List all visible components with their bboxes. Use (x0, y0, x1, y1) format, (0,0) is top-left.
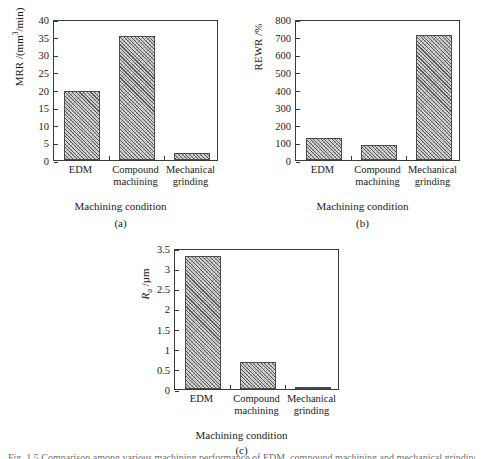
plot-frame-a: 0510152025303540 (53, 20, 218, 161)
figure-container: MRR /(mm3/min) 0510152025303540 EDMCompo… (0, 0, 483, 459)
x-axis-categories-c: EDMCompoundmachiningMechanicalgrinding (174, 393, 339, 427)
y-axis-label-a: MRR /(mm3/min) (9, 0, 23, 107)
y-tick-label: 2.5 (157, 283, 170, 297)
y-tick-mark (175, 391, 179, 392)
y-tick-label: 25 (39, 67, 50, 81)
x-category-label: EDM (295, 164, 350, 176)
y-tick-label: 300 (275, 102, 291, 116)
x-axis-label-a: Machining condition (0, 200, 241, 212)
y-tick-label: 5 (44, 137, 49, 151)
y-axis-label-b: REWR /% (251, 0, 265, 107)
x-tick-mark (164, 156, 165, 160)
y-tick-label: 30 (39, 49, 50, 63)
y-tick-label: 0 (286, 155, 291, 169)
x-category-label: Mechanicalgrinding (405, 164, 460, 187)
y-tick-label: 10 (39, 120, 50, 134)
y-tick-label: 700 (275, 32, 291, 46)
x-category-label: Compoundmachining (350, 164, 405, 187)
bar (306, 138, 342, 160)
bar-group-c (175, 250, 338, 389)
bar (119, 36, 155, 160)
figure-caption: Fig. 1.5 Comparison among various machin… (8, 452, 475, 459)
y-tick-label: 40 (39, 14, 50, 28)
x-category-label: Compoundmachining (108, 164, 163, 187)
x-axis-label-c: Machining condition (121, 429, 362, 441)
y-tick-label: 3.5 (157, 243, 170, 257)
y-tick-label: 1 (165, 344, 170, 358)
y-tick-label: 3 (165, 263, 170, 277)
x-category-label: Mechanicalgrinding (284, 393, 339, 416)
subfigure-label-b: (b) (242, 217, 483, 229)
y-tick-label: 800 (275, 14, 291, 28)
plot-frame-c: 00.511.522.533.5 (174, 249, 339, 390)
y-tick-label: 400 (275, 85, 291, 99)
y-tick-label: 200 (275, 120, 291, 134)
bar (240, 362, 276, 389)
bar (185, 256, 221, 389)
bar-group-a (54, 21, 217, 160)
x-tick-mark (285, 385, 286, 389)
y-tick-label: 2 (165, 303, 170, 317)
y-tick-label: 0 (165, 384, 170, 398)
y-tick-label: 1.5 (157, 324, 170, 338)
x-category-label: Mechanicalgrinding (163, 164, 218, 187)
x-tick-mark (351, 156, 352, 160)
plot-frame-b: 0100200300400500600700800 (295, 20, 460, 161)
y-axis-label-c: Ra /µm (138, 224, 152, 344)
x-axis-categories-b: EDMCompoundmachiningMechanicalgrinding (295, 164, 460, 198)
chart-panel-a: MRR /(mm3/min) 0510152025303540 EDMCompo… (0, 4, 241, 229)
x-tick-mark (109, 156, 110, 160)
y-tick-label: 600 (275, 49, 291, 63)
y-tick-label: 15 (39, 102, 50, 116)
y-tick-label: 20 (39, 85, 50, 99)
y-tick-mark (54, 162, 58, 163)
bar (416, 35, 452, 160)
y-tick-mark (296, 162, 300, 163)
chart-panel-b: REWR /% 0100200300400500600700800 EDMCom… (242, 4, 483, 229)
x-tick-mark (230, 385, 231, 389)
y-tick-label: 100 (275, 137, 291, 151)
bar (295, 387, 331, 389)
bar-group-b (296, 21, 459, 160)
x-category-label: Compoundmachining (229, 393, 284, 416)
y-tick-label: 500 (275, 67, 291, 81)
x-category-label: EDM (53, 164, 108, 176)
x-axis-categories-a: EDMCompoundmachiningMechanicalgrinding (53, 164, 218, 198)
y-tick-label: 0.5 (157, 364, 170, 378)
y-tick-label: 0 (44, 155, 49, 169)
bar (174, 153, 210, 160)
subfigure-label-a: (a) (0, 217, 241, 229)
y-tick-label: 35 (39, 32, 50, 46)
bar (361, 145, 397, 160)
x-tick-mark (406, 156, 407, 160)
chart-panel-c: Ra /µm 00.511.522.533.5 EDMCompoundmachi… (121, 233, 362, 455)
x-category-label: EDM (174, 393, 229, 405)
bar (64, 91, 100, 160)
x-axis-label-b: Machining condition (242, 200, 483, 212)
